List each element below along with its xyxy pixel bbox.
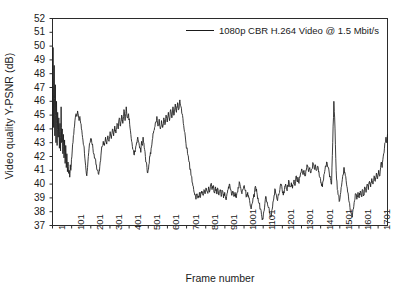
plot-border [53, 19, 388, 226]
chart-figure: Video quality Y-PSNR (dB) 37383940414243… [0, 0, 407, 299]
legend-label: 1080p CBR H.264 Video @ 1.5 Mbit/s [219, 25, 379, 36]
plot-area [0, 0, 407, 299]
series-line-psnr [53, 47, 388, 219]
axes-frame [53, 19, 388, 226]
chart-legend: 1080p CBR H.264 Video @ 1.5 Mbit/s [186, 25, 379, 36]
legend-line-swatch [186, 30, 214, 31]
x-axis-title: Frame number [52, 272, 388, 284]
